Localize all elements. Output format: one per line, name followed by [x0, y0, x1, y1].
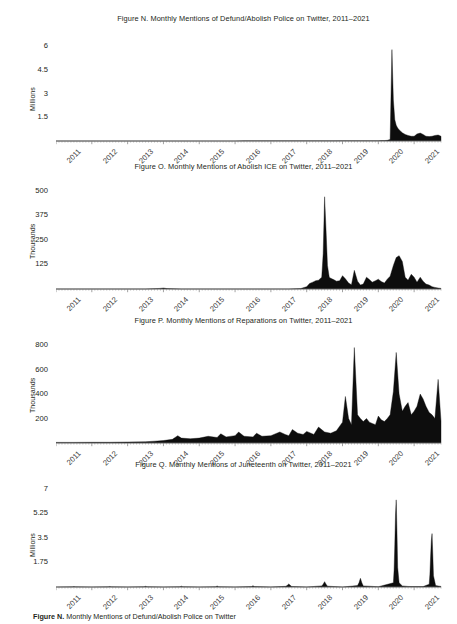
- y-tick-label: 3: [12, 89, 48, 98]
- series-area: [56, 197, 441, 289]
- y-tick-label: 600: [12, 365, 48, 374]
- y-tick-label: 1.75: [12, 557, 48, 566]
- chart-title-figure-n: Figure N. Monthly Mentions of Defund/Abo…: [0, 14, 457, 23]
- y-tick-label: 6: [12, 41, 48, 50]
- chart-body-figure-o: Thousands1252503755002011201220132014201…: [0, 171, 457, 315]
- y-tick-label: 7: [12, 484, 48, 493]
- series-area: [56, 50, 441, 141]
- y-tick-label: 500: [12, 186, 48, 195]
- chart-title-figure-q: Figure Q. Monthly Mentions of Juneteenth…: [0, 460, 457, 469]
- plot-area-figure-n: [56, 37, 449, 151]
- y-tick-label: 125: [12, 259, 48, 268]
- y-tick-label: 200: [12, 414, 48, 423]
- chart-title-figure-o: Figure O. Monthly Mentions of Abolish IC…: [0, 162, 457, 171]
- bottom-caption-lead: Figure N.: [33, 612, 64, 621]
- y-tick-label: 3.5: [12, 533, 48, 542]
- bottom-figure-caption: Figure N. Monthly Mentions of Defund/Abo…: [33, 612, 443, 622]
- figure-block-figure-n: Figure N. Monthly Mentions of Defund/Abo…: [0, 14, 457, 167]
- series-area: [56, 348, 441, 443]
- y-tick-label: 250: [12, 235, 48, 244]
- figure-block-figure-o: Figure O. Monthly Mentions of Abolish IC…: [0, 162, 457, 315]
- plot-area-figure-o: [56, 185, 449, 299]
- chart-body-figure-n: Millions1.534.56201120122013201420152016…: [0, 23, 457, 167]
- series-area: [56, 500, 441, 587]
- y-tick-label: 1.5: [12, 112, 48, 121]
- bottom-caption-rest: Monthly Mentions of Defund/Abolish Polic…: [64, 612, 236, 621]
- y-tick-label: 400: [12, 389, 48, 398]
- chart-body-figure-p: Thousands2004006008002011201220132014201…: [0, 325, 457, 469]
- y-tick-label: 375: [12, 210, 48, 219]
- y-tick-label: 5.25: [12, 508, 48, 517]
- chart-body-figure-q: Millions1.753.55.25720112012201320142015…: [0, 469, 457, 613]
- figure-block-figure-p: Figure P. Monthly Mentions of Reparation…: [0, 316, 457, 469]
- chart-title-figure-p: Figure P. Monthly Mentions of Reparation…: [0, 316, 457, 325]
- y-tick-label: 4.5: [12, 65, 48, 74]
- plot-area-figure-q: [56, 483, 449, 597]
- y-tick-label: 800: [12, 340, 48, 349]
- plot-area-figure-p: [56, 339, 449, 453]
- figure-block-figure-q: Figure Q. Monthly Mentions of Juneteenth…: [0, 460, 457, 613]
